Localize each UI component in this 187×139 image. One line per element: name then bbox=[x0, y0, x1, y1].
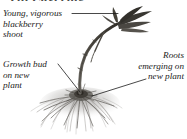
tip-layering-figure: Tip Layering bbox=[0, 0, 187, 139]
callout-young-shoot: Young, vigorous blackberry shoot bbox=[3, 8, 62, 40]
callout-growth-bud: Growth bud on new plant bbox=[3, 59, 47, 91]
blackberry-cane bbox=[78, 24, 117, 93]
callout-roots-emerging: Roots emerging on new plant bbox=[138, 50, 184, 82]
root-mass-group bbox=[31, 84, 122, 134]
